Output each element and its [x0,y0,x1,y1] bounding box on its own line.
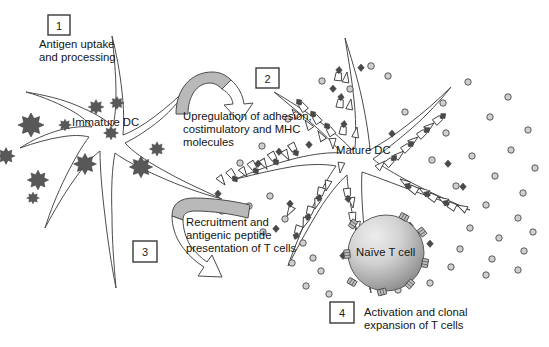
step-caption-3: Recruitment and antigenic peptide presen… [186,216,296,256]
step-caption-4: Activation and clonal expansion of T cel… [364,306,468,332]
step-box-4: 4 [330,302,354,323]
immature-dc-label: Immature DC [72,116,139,128]
step-caption-2: Upregulation of adhesion, costimulatory … [183,110,312,150]
antigen-particle [18,113,44,137]
step-number-2: 2 [264,73,270,85]
step-number-3: 3 [142,246,148,258]
step-number-4: 4 [339,307,345,319]
figure-canvas: 1 2 3 4 Antigen uptake and processing Up… [0,0,549,347]
antigen-particle [149,142,165,156]
step-box-1: 1 [48,15,70,35]
step-caption-1: Antigen uptake and processing [39,38,116,64]
step-box-3: 3 [133,241,157,262]
antigen-particle [27,192,40,204]
mature-dc-label: Mature DC [336,144,391,156]
naive-t-cell-label: Naïve T cell [356,246,415,258]
step-number-1: 1 [56,20,62,32]
step-box-2: 2 [256,68,279,88]
antigen-particle [27,170,48,190]
antigen-particle [0,148,15,165]
